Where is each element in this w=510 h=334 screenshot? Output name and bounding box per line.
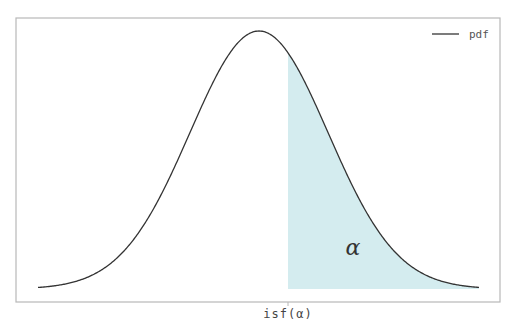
plot-frame xyxy=(16,18,500,302)
pdf-curve xyxy=(38,31,479,287)
chart: isf(α) α pdf xyxy=(0,0,510,334)
alpha-annotation: α xyxy=(346,235,361,260)
shaded-tail-area xyxy=(288,53,479,289)
x-tick-label: isf(α) xyxy=(263,307,312,321)
legend-label-pdf: pdf xyxy=(469,28,489,41)
legend: pdf xyxy=(432,28,489,41)
